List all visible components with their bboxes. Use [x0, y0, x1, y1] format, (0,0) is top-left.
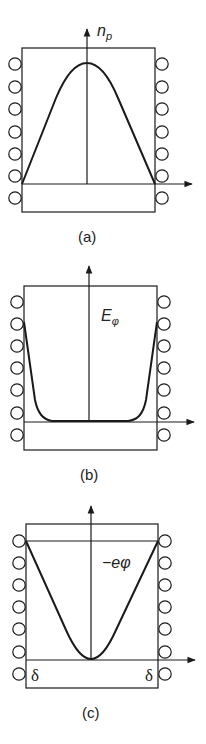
- panel-a-right-coil: [156, 58, 168, 204]
- panel-c-right-delta-label: δ: [145, 666, 153, 686]
- panel-b-left-coil: [11, 296, 23, 441]
- panel-a-left-coil: [9, 58, 21, 204]
- panel-b-frame: [24, 286, 157, 450]
- panel-b: [11, 266, 194, 450]
- panel-b-right-coil: [158, 296, 170, 441]
- panel-c-quantity-label: −eφ: [102, 554, 131, 572]
- panel-c-right-coil: [159, 535, 171, 680]
- panel-a-quantity-label: np: [97, 22, 112, 42]
- panel-c-left-delta-label: δ: [31, 666, 39, 686]
- panel-c-left-coil: [13, 535, 25, 680]
- panel-a-caption: (a): [78, 228, 96, 245]
- panel-b-caption: (b): [80, 466, 98, 483]
- panel-b-quantity-label: Eφ: [101, 307, 119, 327]
- panel-a-curve: [22, 63, 155, 184]
- panel-b-curve: [24, 322, 157, 421]
- panel-a: [9, 29, 192, 212]
- panel-a-frame: [22, 48, 155, 212]
- panel-c-curve: [26, 541, 158, 659]
- panel-c-frame: [26, 524, 158, 688]
- diagram-canvas: [0, 0, 206, 744]
- panel-c: [13, 506, 195, 688]
- panel-c-caption: (c): [82, 704, 100, 721]
